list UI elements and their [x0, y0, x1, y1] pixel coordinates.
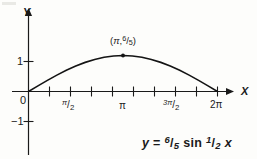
y-tick-label-1: 1 [17, 56, 23, 67]
origin-label: 0 [20, 95, 26, 106]
x-axis-arrowhead [226, 88, 234, 95]
x-tick-label-3pi-over-2: 3π/2 [163, 99, 179, 112]
y-axis-label: Y [23, 7, 30, 18]
equation-label: y = 6/5 sin 1/2 x [142, 135, 232, 150]
x-axis-label: X [241, 86, 248, 97]
pi-over-2-denominator: 2 [70, 103, 74, 112]
equation-sin-function: sin [183, 136, 202, 150]
apex-paren-close: ) [133, 35, 136, 46]
apex-point-label: (π,6/5) [110, 35, 136, 47]
sine-curve-figure: Y X 0 1 −1 π/2 π 3π/2 2π (π,6/5) y = 6/5… [0, 0, 257, 159]
y-tick-label-minus-1: −1 [11, 116, 24, 127]
x-tick-label-2pi: 2π [210, 100, 222, 110]
sine-curve [29, 56, 218, 92]
x-tick-label-pi-over-2: π/2 [62, 99, 74, 112]
equation-equals: = [153, 136, 161, 150]
x-tick-label-pi: π [119, 101, 126, 111]
three-pi-over-2-denominator: 2 [175, 103, 179, 112]
apex-point-marker [121, 54, 125, 58]
equation-variable: x [225, 136, 232, 150]
three-pi-over-2-numerator: 3π [163, 98, 172, 107]
